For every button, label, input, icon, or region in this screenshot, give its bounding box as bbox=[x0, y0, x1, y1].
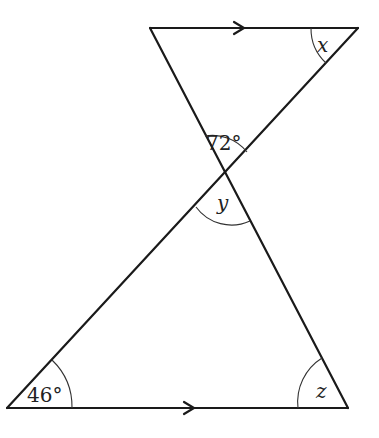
transversal-line-2 bbox=[7, 28, 358, 408]
geometry-diagram: x 72° y 46° z bbox=[0, 0, 379, 438]
transversal-line-1 bbox=[150, 28, 348, 408]
label-z: z bbox=[315, 379, 327, 403]
label-y: y bbox=[216, 191, 229, 215]
label-46: 46° bbox=[27, 383, 62, 407]
label-x: x bbox=[317, 33, 328, 57]
label-72: 72° bbox=[206, 131, 241, 155]
